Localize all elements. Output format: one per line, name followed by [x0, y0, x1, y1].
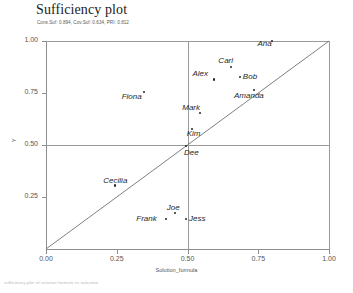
data-point-label: Bob [243, 72, 257, 81]
diagonal-reference-line [46, 41, 329, 249]
y-tick-mark [42, 145, 46, 146]
y-tick-label: 0.75 [8, 88, 38, 95]
data-point-label: Carl [218, 56, 233, 65]
y-tick-mark [42, 41, 46, 42]
data-point-label: Frank [136, 214, 156, 223]
sufficiency-plot-figure: Sufficiency plot Cons.Suf: 0.894, Cov.Su… [0, 0, 353, 293]
y-tick-mark [42, 93, 46, 94]
x-tick-label: 0.25 [97, 255, 137, 262]
x-tick-mark [258, 250, 259, 254]
page-title: Sufficiency plot [36, 2, 127, 18]
data-point-label: Cecilia [103, 176, 127, 185]
data-point-label: Amanda [234, 91, 264, 100]
x-tick-mark [117, 250, 118, 254]
figure-footnote: sufficiency plot of solution formula vs … [4, 280, 98, 285]
y-axis-title: Y [11, 120, 17, 160]
x-tick-label: 0.75 [238, 255, 278, 262]
y-tick-label: 1.00 [8, 36, 38, 43]
x-tick-mark [46, 250, 47, 254]
data-point [174, 212, 176, 214]
data-point [143, 91, 145, 93]
fit-statistics-subtitle: Cons.Suf: 0.894, Cov.Suf: 0.634, PRI: 0.… [37, 20, 129, 25]
data-point-label: Ana [257, 39, 271, 48]
x-tick-label: 1.00 [309, 255, 349, 262]
data-point-label: Jess [189, 214, 205, 223]
data-point-label: Dee [184, 148, 199, 157]
y-tick-mark [42, 197, 46, 198]
x-tick-label: 0.00 [26, 255, 66, 262]
y-tick-label: 0.25 [8, 192, 38, 199]
data-point-label: Mark [182, 103, 200, 112]
x-axis-title: Solution_formula [0, 267, 353, 273]
data-point-label: Fiona [122, 92, 142, 101]
data-point-label: Alex [192, 69, 208, 78]
data-point-label: Joe [167, 203, 180, 212]
data-point-label: Kim [187, 129, 201, 138]
x-tick-label: 0.50 [168, 255, 208, 262]
x-tick-mark [329, 250, 330, 254]
plot-panel: AnaCarlBobAlexAmandaFionaMarkKimDeeCecil… [46, 41, 329, 249]
x-tick-mark [188, 250, 189, 254]
gridline-vertical [329, 41, 330, 249]
